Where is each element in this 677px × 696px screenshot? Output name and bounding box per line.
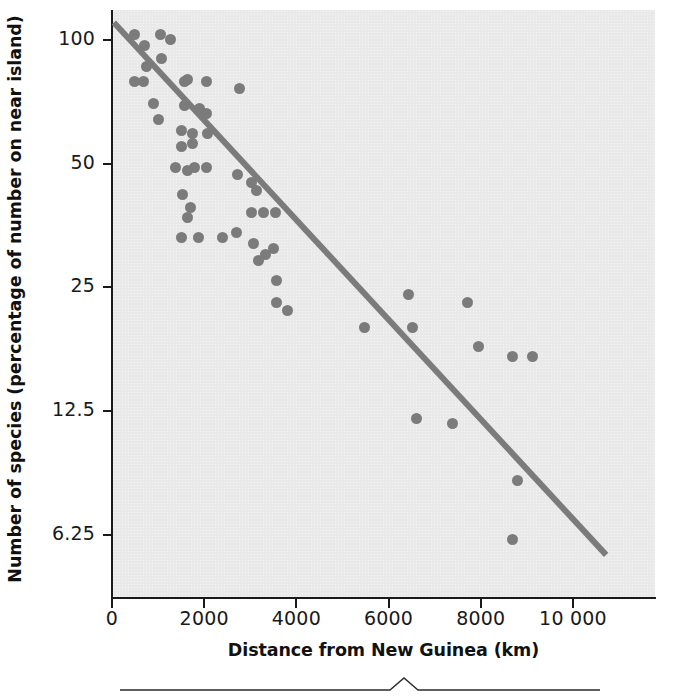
y-axis-title: Number of species (percentage of number …: [0, 0, 30, 598]
data-point: [189, 162, 200, 173]
data-point: [165, 34, 176, 45]
plot-area: [112, 10, 655, 598]
y-tick-label-6.25: 6.25: [52, 522, 95, 544]
data-point: [148, 98, 159, 109]
data-point: [270, 207, 281, 218]
figure: Number of species (percentage of number …: [0, 0, 677, 696]
data-point: [231, 227, 242, 238]
x-axis-title: Distance from New Guinea (km): [112, 640, 655, 660]
y-tick-100: [103, 39, 112, 41]
y-tick-25: [103, 286, 112, 288]
y-tick-label-25: 25: [70, 274, 95, 296]
x-tick-label-4000: 4000: [272, 607, 321, 629]
data-point: [234, 83, 245, 94]
x-tick-label-10000: 10 000: [539, 607, 607, 629]
data-point: [282, 305, 293, 316]
data-point: [359, 322, 370, 333]
y-tick-label-12.5: 12.5: [52, 398, 95, 420]
y-tick-50: [103, 163, 112, 165]
data-point: [232, 169, 243, 180]
y-tick-6.25: [103, 534, 112, 536]
x-axis-line: [111, 597, 656, 599]
data-point: [176, 125, 187, 136]
data-point: [512, 475, 523, 486]
data-point: [447, 418, 458, 429]
decorative-rule: [0, 668, 677, 696]
data-point: [473, 341, 484, 352]
data-point: [407, 322, 418, 333]
data-point: [271, 297, 282, 308]
data-point: [176, 141, 187, 152]
y-tick-label-100: 100: [58, 27, 95, 49]
data-point: [271, 275, 282, 286]
data-point: [258, 207, 269, 218]
y-axis-title-text: Number of species (percentage of number …: [5, 15, 25, 582]
data-point: [187, 138, 198, 149]
data-point: [138, 76, 149, 87]
data-point: [139, 40, 150, 51]
data-point: [182, 212, 193, 223]
x-tick-label-0: 0: [106, 607, 118, 629]
y-tick-label-50: 50: [70, 151, 95, 173]
data-point: [507, 534, 518, 545]
data-point: [129, 29, 140, 40]
data-point: [170, 162, 181, 173]
x-tick-label-2000: 2000: [180, 607, 229, 629]
data-point: [182, 74, 193, 85]
data-point: [153, 114, 164, 125]
y-tick-12.5: [103, 410, 112, 412]
x-tick-label-6000: 6000: [364, 607, 413, 629]
x-tick-label-8000: 8000: [456, 607, 505, 629]
data-point: [411, 413, 422, 424]
y-axis-line: [111, 10, 113, 599]
data-point: [141, 61, 152, 72]
data-point: [176, 232, 187, 243]
data-point: [527, 351, 538, 362]
data-point: [177, 189, 188, 200]
data-point: [507, 351, 518, 362]
rule-polyline: [120, 678, 600, 690]
